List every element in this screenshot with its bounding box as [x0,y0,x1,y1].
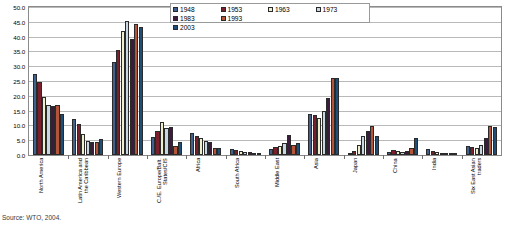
bar [282,143,286,155]
bar [86,141,90,155]
bar [208,142,212,155]
bar [322,111,326,155]
bar [409,148,413,155]
bar [234,150,238,155]
legend-item[interactable]: 2003 [173,24,266,32]
bar [116,50,120,155]
bar [95,142,99,155]
legend-label: 1993 [228,15,243,23]
bar [366,131,370,155]
legend: 1948195319631973198319932003 [170,3,370,23]
bar [470,147,474,155]
bar-group [304,7,343,155]
bar [493,127,497,155]
y-axis-tick-label: 15.0 [13,107,25,114]
bar-group [422,7,461,155]
bar [190,133,194,155]
bar-group [344,7,383,155]
bar [204,141,208,155]
bar [60,114,64,155]
bar [308,114,312,155]
bar [296,143,300,155]
legend-swatch-icon [173,16,178,21]
y-axis-tick-label: 30.0 [13,63,25,70]
legend-label: 1953 [228,6,243,14]
bar [326,98,330,155]
legend-label: 2003 [180,24,195,32]
x-axis-category-label-line: North America [38,158,44,216]
x-axis-category-label: China [392,158,398,216]
bar [77,124,81,155]
bar [81,134,85,155]
chart-container: 0.05.010.015.020.025.030.035.040.045.050… [0,0,509,226]
y-axis-tick-label: 5.0 [17,137,25,144]
y-axis-tick-label: 20.0 [13,92,25,99]
bar [164,128,168,155]
bar [151,137,155,155]
bar [213,148,217,155]
bar [449,153,453,155]
bar [169,127,173,155]
bar [55,105,59,155]
bar [479,145,483,155]
bar [484,138,488,155]
bar-group [462,7,501,155]
bar [331,78,335,155]
bar [370,126,374,155]
bar [37,82,41,155]
legend-item[interactable]: 1948 [173,6,221,14]
bar [90,142,94,155]
legend-swatch-icon [268,7,273,12]
x-axis-category-label-line: Africa [195,158,201,216]
legend-item[interactable]: 1983 [173,15,221,23]
y-axis-tick-label: 45.0 [13,18,25,25]
y-axis-tick-label: 25.0 [13,78,25,85]
y-axis: 0.05.010.015.020.025.030.035.040.045.050… [0,6,27,156]
y-axis-tick-label: 35.0 [13,48,25,55]
bar [400,152,404,155]
bar [51,106,55,155]
bar [287,135,291,155]
bar [239,151,243,155]
legend-item[interactable]: 1963 [268,6,316,14]
bar [387,152,391,155]
bar [352,151,356,155]
legend-item[interactable]: 1993 [221,15,314,23]
x-axis-category-label-line: States/CIS [162,158,168,216]
x-axis-category-label-line: C./E. Europe/Balt. [156,158,162,216]
bar [99,139,103,155]
bar [139,27,143,155]
legend-label: 1963 [275,6,290,14]
x-axis-category-label: Six East Asiantraders [470,158,482,216]
x-axis-category-label-line: China [392,158,398,216]
legend-swatch-icon [316,7,321,12]
bar [155,131,159,155]
x-axis-category-label-line: the Caribbean [83,158,89,216]
x-axis-category-label: Middle East [274,158,280,216]
bar [248,152,252,155]
bar [72,119,76,155]
bar [405,151,409,155]
x-axis-category-label-line: South Africa [234,158,240,216]
bar [273,147,277,155]
legend-item[interactable]: 1953 [221,6,269,14]
bar [121,31,125,155]
x-axis-category-label: India [431,158,437,216]
bar [313,115,317,155]
legend-swatch-icon [173,7,178,12]
x-axis-category-label: Japan [352,158,358,216]
x-axis-category-label-line: Western Europe [116,158,122,216]
bar [466,146,470,155]
legend-item[interactable]: 1973 [316,6,364,14]
bar [195,136,199,155]
bar [317,118,321,155]
bar [475,148,479,155]
x-axis-category-label-line: Asia [313,158,319,216]
y-axis-tick-label: 10.0 [13,122,25,129]
bar [269,149,273,155]
bar [375,136,379,155]
bar-group [265,7,304,155]
legend-swatch-icon [221,16,226,21]
bar [291,145,295,155]
legend-swatch-icon [221,7,226,12]
